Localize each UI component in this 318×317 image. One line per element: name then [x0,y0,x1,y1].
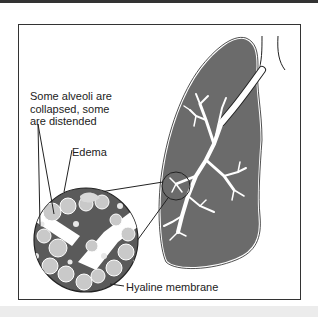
bottom-band [0,306,318,317]
edema-label: Edema [72,146,107,159]
hyaline-membrane-label: Hyaline membrane [126,281,218,294]
alveoli-label: Some alveoli are collapsed, some are dis… [30,90,112,128]
lung-diagram [0,0,318,317]
